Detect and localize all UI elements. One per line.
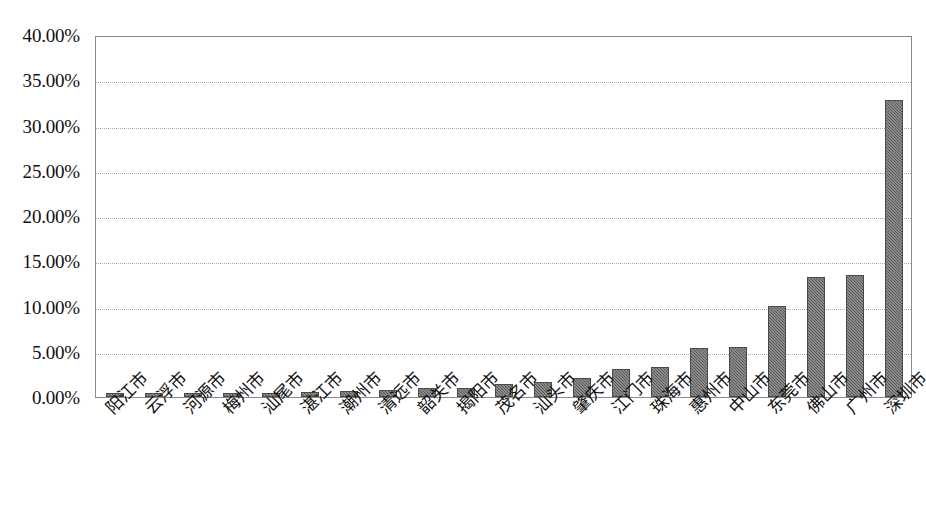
bar-slot xyxy=(96,37,135,397)
x-axis: 阳江市云浮市河源市梅州市汕尾市湛江市潮州市清远市韶关市揭阳市茂名市汕头市肇庆市江… xyxy=(95,398,912,506)
y-tick-label: 10.00% xyxy=(23,298,80,317)
bar[interactable] xyxy=(885,100,903,397)
y-axis: 0.00%5.00%10.00%15.00%20.00%25.00%30.00%… xyxy=(0,0,88,506)
y-tick-label: 30.00% xyxy=(23,117,80,136)
y-tick-label: 40.00% xyxy=(23,26,80,45)
bar-slot xyxy=(213,37,252,397)
bar-slot xyxy=(252,37,291,397)
bar-slot xyxy=(874,37,913,397)
bar-slot xyxy=(757,37,796,397)
bar-slot xyxy=(718,37,757,397)
bar-slot xyxy=(602,37,641,397)
plot-area xyxy=(95,36,912,398)
bar-slot xyxy=(174,37,213,397)
bar-slot xyxy=(291,37,330,397)
bar-slot xyxy=(680,37,719,397)
bar-slot xyxy=(796,37,835,397)
bar-slot xyxy=(485,37,524,397)
bar-slot xyxy=(563,37,602,397)
y-tick-label: 20.00% xyxy=(23,207,80,226)
bar-slot xyxy=(835,37,874,397)
bar-slot xyxy=(135,37,174,397)
bar-slot xyxy=(524,37,563,397)
bar-slot xyxy=(329,37,368,397)
y-tick-label: 35.00% xyxy=(23,71,80,90)
bar-slot xyxy=(368,37,407,397)
y-tick-label: 0.00% xyxy=(32,388,80,407)
bar-slot xyxy=(446,37,485,397)
bar-slot xyxy=(407,37,446,397)
y-tick-label: 25.00% xyxy=(23,162,80,181)
bar-chart: 0.00%5.00%10.00%15.00%20.00%25.00%30.00%… xyxy=(0,0,926,506)
bar-series xyxy=(96,37,911,397)
bar-slot xyxy=(641,37,680,397)
y-tick-label: 15.00% xyxy=(23,252,80,271)
y-tick-label: 5.00% xyxy=(32,343,80,362)
